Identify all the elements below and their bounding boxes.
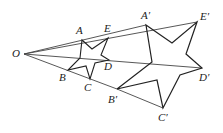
label-C: C [84, 81, 92, 93]
label-E: E [103, 22, 111, 34]
label-B-prime: B′ [108, 93, 118, 105]
ray-O-D1 [24, 54, 202, 68]
label-B: B [59, 71, 66, 83]
label-A-prime: A′ [140, 9, 151, 21]
label-A: A [75, 24, 83, 36]
ray-O-A1 [24, 25, 146, 54]
label-D: D [103, 60, 112, 72]
label-O: O [12, 47, 20, 59]
label-E-prime: E′ [199, 10, 210, 22]
homothety-diagram: O A E B C D A′ E′ D′ B′ C′ [0, 0, 223, 133]
segment-B1-C1 [117, 89, 163, 108]
label-D-prime: D′ [198, 71, 210, 83]
label-C-prime: C′ [158, 111, 168, 123]
diagram-canvas: O A E B C D A′ E′ D′ B′ C′ [0, 0, 223, 133]
